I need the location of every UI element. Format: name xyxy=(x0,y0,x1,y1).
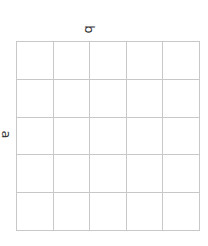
row-axis-label: a xyxy=(0,131,13,139)
grid xyxy=(16,41,200,231)
column-axis-label: b xyxy=(83,25,96,33)
grid-cell xyxy=(127,42,164,80)
grid-cell xyxy=(17,42,54,80)
grid-cell xyxy=(54,155,91,193)
grid-cell xyxy=(127,118,164,156)
grid-cell xyxy=(90,155,127,193)
grid-cell xyxy=(163,42,200,80)
grid-cell xyxy=(163,118,200,156)
grid-cell xyxy=(17,118,54,156)
grid-cell xyxy=(90,193,127,231)
grid-cell xyxy=(90,80,127,118)
grid-cell xyxy=(127,80,164,118)
grid-cell xyxy=(90,118,127,156)
grid-cell xyxy=(54,80,91,118)
grid-cell xyxy=(17,155,54,193)
grid-cell xyxy=(127,193,164,231)
grid-cell xyxy=(127,155,164,193)
grid-cell xyxy=(90,42,127,80)
grid-cell xyxy=(17,80,54,118)
grid-cell xyxy=(163,80,200,118)
grid-cell xyxy=(54,118,91,156)
grid-cell xyxy=(163,193,200,231)
grid-cell xyxy=(17,193,54,231)
grid-cell xyxy=(54,42,91,80)
grid-cell xyxy=(54,193,91,231)
grid-cell xyxy=(163,155,200,193)
